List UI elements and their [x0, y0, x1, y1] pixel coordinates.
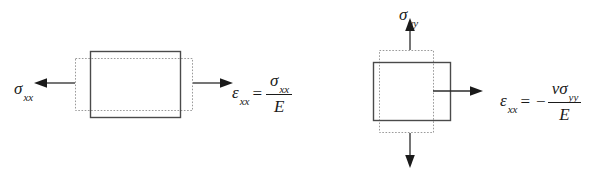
numerator-sigma-symbol: σ — [559, 79, 567, 98]
sigma-yy-label: σyy — [399, 6, 417, 26]
youngs-modulus-symbol: E — [274, 97, 284, 116]
sigma-subscript: xx — [23, 91, 33, 103]
stress-over-modulus-fraction: σxx E — [266, 72, 292, 115]
youngs-modulus-symbol: E — [559, 105, 569, 124]
numerator-sigma-subscript: yy — [569, 91, 579, 103]
epsilon-symbol: ε — [232, 83, 239, 102]
axial-stress-panel: σxx εxx = σxx E — [0, 0, 296, 178]
fraction-numerator: νσyy — [548, 80, 582, 101]
figure-root: σxx εxx = σxx E — [0, 0, 592, 178]
strain-xx-arrow-right — [433, 86, 483, 96]
sigma-subscript: yy — [408, 17, 418, 29]
sigma-symbol: σ — [399, 5, 407, 24]
undeformed-element-solid-rect — [91, 52, 181, 118]
epsilon-subscript: xx — [240, 95, 250, 107]
epsilon-subscript: xx — [508, 103, 518, 115]
sigma-symbol: σ — [14, 79, 22, 98]
equals-sign: = — [248, 85, 266, 102]
equals-sign: = — [516, 93, 534, 110]
sigma-yy-arrow-down — [405, 133, 415, 168]
poisson-strain-equation: εxx = − νσyy E — [500, 80, 581, 123]
poisson-stress-over-modulus-fraction: νσyy E — [548, 80, 582, 123]
poisson-effect-panel: σyy εxx = − νσyy E — [296, 0, 592, 178]
sigma-xx-arrow-right — [193, 78, 233, 88]
negative-sign: − — [534, 93, 548, 110]
axial-strain-equation: εxx = σxx E — [232, 72, 292, 115]
fraction-numerator: σxx — [266, 72, 292, 93]
fraction-denominator: E — [266, 97, 292, 115]
sigma-xx-label: σxx — [14, 80, 32, 100]
fraction-denominator: E — [548, 105, 582, 123]
deformed-element-dashed-rect — [76, 59, 193, 111]
numerator-sigma-symbol: σ — [270, 71, 278, 90]
numerator-sigma-subscript: xx — [279, 83, 289, 95]
epsilon-symbol: ε — [500, 91, 507, 110]
sigma-xx-arrow-left — [34, 78, 75, 88]
